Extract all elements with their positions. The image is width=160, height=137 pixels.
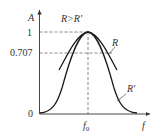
y-tick-1: 1 — [27, 27, 32, 38]
curve-r-prime-label: R' — [126, 83, 136, 94]
center-frequency-label: f0 — [83, 120, 90, 133]
curve-r-prime — [40, 32, 137, 113]
curve-r-prime-leader — [117, 94, 126, 101]
comparison-label: R>R' — [60, 13, 83, 24]
y-tick-0707: 0.707 — [10, 47, 33, 58]
curve-r-label: R — [111, 37, 118, 48]
x-axis-label: f — [142, 120, 146, 131]
origin-label: 0 — [28, 108, 33, 119]
resonance-diagram: A R>R' 1 0.707 0 R R' f f0 — [0, 0, 160, 137]
y-axis-label: A — [27, 12, 35, 23]
